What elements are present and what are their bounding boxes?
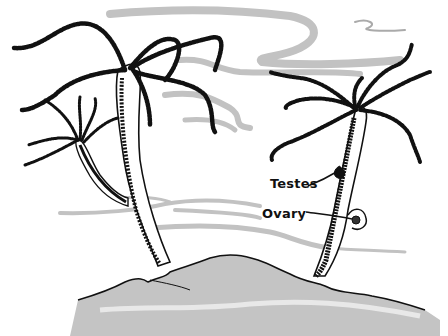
hydra-left xyxy=(76,64,170,266)
ovary-label: Ovary xyxy=(262,206,306,221)
hydra-diagram: Testes Ovary xyxy=(0,0,448,336)
testes-label: Testes xyxy=(270,176,318,191)
illustration xyxy=(0,0,448,336)
ground-mound xyxy=(70,255,440,336)
